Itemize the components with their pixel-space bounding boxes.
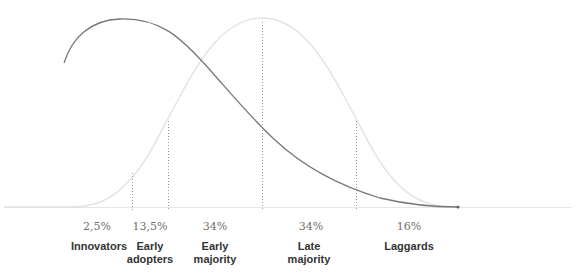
- label-early-adopters-line2: adopters: [127, 253, 173, 266]
- label-late-majority-line2: majority: [288, 253, 331, 266]
- label-laggards-line1: Laggards: [384, 240, 434, 253]
- decline-curve: [64, 19, 458, 207]
- pct-early-majority: 34%: [203, 220, 227, 233]
- pct-innovators: 2,5%: [83, 220, 111, 233]
- label-early-adopters: Early adopters: [127, 240, 173, 266]
- pct-early-adopters: 13,5%: [133, 220, 168, 233]
- label-laggards: Laggards: [384, 240, 434, 253]
- pct-late-majority: 34%: [299, 220, 323, 233]
- label-late-majority: Late majority: [288, 240, 331, 266]
- curve-end-marker: [456, 205, 459, 208]
- label-early-majority-line1: Early: [194, 240, 237, 253]
- pct-laggards: 16%: [397, 220, 421, 233]
- label-early-majority: Early majority: [194, 240, 237, 266]
- label-early-adopters-line1: Early: [127, 240, 173, 253]
- label-late-majority-line1: Late: [288, 240, 331, 253]
- label-innovators-line1: Innovators: [71, 240, 127, 253]
- label-innovators: Innovators: [71, 240, 127, 253]
- label-early-majority-line2: majority: [194, 253, 237, 266]
